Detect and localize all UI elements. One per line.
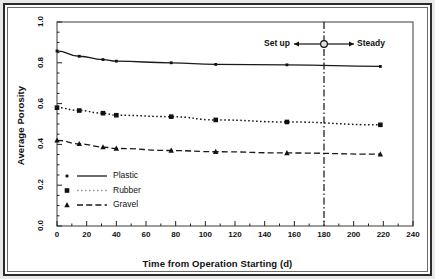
data-point-marker	[170, 61, 173, 64]
x-tick-label: 240	[398, 230, 428, 239]
series-gravel	[54, 137, 383, 156]
series-plastic	[56, 50, 382, 68]
x-tick-label: 200	[339, 230, 369, 239]
setup-phase-label: Set up	[254, 38, 290, 48]
data-series-group	[54, 50, 383, 157]
y-tick-label: 0.4	[36, 129, 45, 159]
data-point-marker	[286, 63, 289, 66]
x-tick-label: 220	[368, 230, 398, 239]
axis-ticks	[57, 22, 413, 226]
plot-area-border	[57, 22, 413, 226]
legend-item-rubber: Rubber	[113, 185, 141, 195]
x-tick-label: 140	[250, 230, 280, 239]
y-axis-title: Average Porosity	[15, 46, 26, 206]
plot-frame	[57, 22, 413, 226]
divider-circle-icon	[321, 41, 328, 48]
data-point-marker	[55, 105, 60, 110]
steady-phase-label: Steady	[357, 38, 385, 48]
data-point-marker	[115, 60, 118, 63]
data-point-marker	[213, 118, 218, 123]
chart-legend	[64, 175, 107, 208]
series-line	[57, 140, 380, 154]
x-tick-label: 120	[220, 230, 250, 239]
series-line	[57, 108, 380, 125]
data-point-marker	[214, 63, 217, 66]
series-line	[57, 51, 380, 67]
legend-item-gravel: Gravel	[113, 199, 138, 209]
x-tick-label: 40	[101, 230, 131, 239]
data-point-marker	[379, 65, 382, 68]
y-tick-label: 0.2	[36, 170, 45, 200]
data-point-marker	[77, 108, 82, 113]
series-rubber	[55, 105, 383, 127]
data-point-marker	[285, 120, 290, 125]
y-tick-label: 1.0	[36, 7, 45, 37]
x-tick-label: 80	[161, 230, 191, 239]
x-axis-title: Time from Operation Starting (d)	[0, 258, 435, 269]
x-tick-label: 60	[131, 230, 161, 239]
data-point-marker	[78, 55, 81, 58]
data-point-marker	[169, 114, 174, 119]
data-point-marker	[56, 50, 59, 53]
y-tick-label: 0.6	[36, 88, 45, 118]
data-point-marker	[102, 58, 105, 61]
y-tick-label: 0.8	[36, 47, 45, 77]
legend-item-plastic: Plastic	[113, 170, 138, 180]
data-point-marker	[114, 113, 119, 118]
data-point-marker	[378, 123, 383, 128]
x-tick-label: 0	[42, 230, 72, 239]
legend-marker	[65, 188, 70, 193]
x-tick-label: 180	[309, 230, 339, 239]
left-arrow-head	[294, 41, 299, 46]
y-tick-label: 0.0	[36, 211, 45, 241]
legend-marker	[66, 175, 69, 178]
x-tick-label: 20	[72, 230, 102, 239]
right-arrow-head	[349, 41, 354, 46]
x-tick-label: 100	[190, 230, 220, 239]
data-point-marker	[101, 111, 106, 116]
figure-container: Time from Operation Starting (d) Average…	[0, 0, 435, 279]
legend-marker	[64, 202, 69, 207]
x-tick-label: 160	[279, 230, 309, 239]
